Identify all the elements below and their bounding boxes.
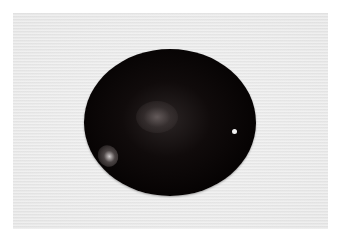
right-specular-highlight xyxy=(232,129,237,134)
center-reflection xyxy=(136,101,178,133)
photo-background xyxy=(13,13,328,229)
dark-oval-stone xyxy=(84,49,256,196)
left-highlight xyxy=(94,141,122,170)
